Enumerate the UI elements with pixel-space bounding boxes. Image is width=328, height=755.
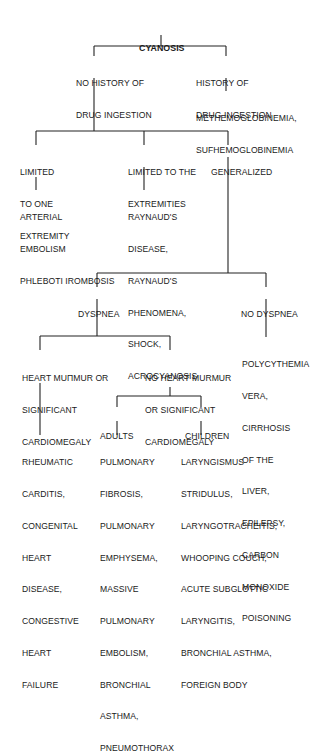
node-text: ARTERIAL [20, 212, 115, 223]
node-generalized: GENERALIZED [211, 146, 272, 199]
node-text: DYSPNEA [78, 309, 119, 320]
node-text: STRIDULUS, [181, 489, 277, 500]
node-text: FOREIGN BODY [181, 680, 277, 691]
node-text: VERA, [242, 391, 309, 402]
node-text: RAYNAUD'S [128, 276, 197, 287]
node-text: HEART MUΠMUR OR [22, 373, 108, 384]
node-text: LARYNGITIS, [181, 616, 277, 627]
node-pulmonary: PULMONARY FIBROSIS, PULMONARY EMPHYSEMA,… [100, 436, 174, 755]
node-text: PULMONARY [100, 457, 174, 468]
node-no-dyspnea: NO DYSPNEA [241, 288, 298, 341]
node-text: WHOOPING COUCH, [181, 553, 277, 564]
node-laryngismus: LARYNGISMUS STRIDULUS, LARYNGOTRACHEITIS… [181, 436, 277, 711]
node-text: NO DYSPNEA [241, 309, 298, 320]
node-text: PULMONARY [100, 521, 174, 532]
node-text: LARYNGISMUS [181, 457, 277, 468]
node-text: BRONCHIAL ASTHMA, [181, 648, 277, 659]
node-text: METHEMOGLOBINEMIA, [196, 113, 297, 124]
node-text: EMBOLISM [20, 244, 115, 255]
node-text: FIBROSIS, [100, 489, 174, 500]
node-dyspnea: DYSPNEA [78, 288, 119, 341]
node-text: RHEUMATIC [22, 457, 79, 468]
node-text: PHENOMENA, [128, 308, 197, 319]
node-text: HEART [22, 553, 79, 564]
node-text: CYANOSIS [139, 43, 185, 54]
node-text: LARYNGOTRACHEITIS, [181, 521, 277, 532]
node-text: EMBOLISM, [100, 648, 174, 659]
node-text: ACUTE SUBGLOTTIC [181, 584, 277, 595]
node-text: RAYNAUD'S [128, 212, 197, 223]
node-text: SIGNIFICANT [22, 405, 108, 416]
node-text: POLYCYTHEMIA [242, 359, 309, 370]
node-text: BRONCHIAL [100, 680, 174, 691]
node-text: DISEASE, [22, 584, 79, 595]
node-text: FAILURE [22, 680, 79, 691]
node-text: CONGESTIVE [22, 616, 79, 627]
node-text: CARDITIS, [22, 489, 79, 500]
node-text: HEART [22, 648, 79, 659]
node-text: ASTHMA, [100, 711, 174, 722]
node-text: PULMONARY [100, 616, 174, 627]
node-rheumatic-carditis: RHEUMATIC CARDITIS, CONGENITAL HEART DIS… [22, 436, 79, 711]
node-text: SHOCK, [128, 339, 197, 350]
node-text: LIMITED [20, 167, 70, 178]
node-text: CIRRHOSIS [242, 423, 309, 434]
node-text: NO HEART MURMUR [145, 373, 231, 384]
node-text: GENERALIZED [211, 167, 272, 178]
node-text: CONGENITAL [22, 521, 79, 532]
node-text: NO HISTORY OF [76, 78, 152, 89]
node-text: HISTORY OF [196, 78, 272, 89]
node-text: DRUG INGESTION [76, 110, 152, 121]
node-text: MASSIVE [100, 584, 174, 595]
node-text: DISEASE, [128, 244, 197, 255]
node-text: EMPHYSEMA, [100, 553, 174, 564]
node-text: PHLEBOTI IROMBOSIS [20, 276, 115, 287]
node-no-history-of-drug-ingestion: NO HISTORY OF DRUG INGESTION [76, 57, 152, 142]
node-text: LIMITED TO THE [128, 167, 196, 178]
node-text: PNEUMOTHORAX [100, 743, 174, 754]
